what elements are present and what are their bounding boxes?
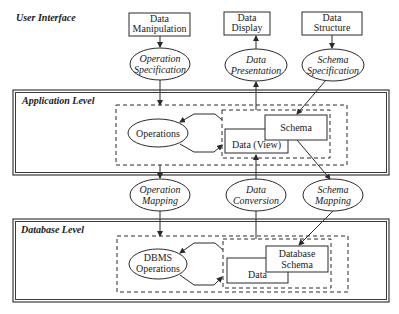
data-manipulation-box: Data Manipulation	[129, 13, 190, 36]
edge-dbmsops-to-data	[180, 275, 222, 285]
edge-schema-to-schemamapping	[297, 140, 330, 179]
data-presentation-line2: Presentation	[230, 65, 282, 76]
database-schema-line1: Database	[279, 248, 316, 259]
data-manipulation-line2: Manipulation	[133, 23, 187, 34]
schema-label: Schema	[280, 122, 312, 133]
operations-label: Operations	[136, 128, 180, 139]
data-presentation-process: Data Presentation	[225, 49, 287, 81]
data-conversion-process: Data Conversion	[226, 179, 286, 211]
layer-title-database-level: Database Level	[20, 224, 84, 235]
edge-schemaspec-to-schema	[297, 80, 326, 114]
database-schema-line2: Schema	[281, 259, 313, 270]
dbms-operations-node: DBMS Operations	[129, 249, 187, 279]
dbms-operations-line2: Operations	[136, 263, 180, 274]
schema-specification-line2: Specification	[307, 65, 359, 76]
operation-mapping-line1: Operation	[139, 184, 180, 195]
edge-schemamapping-to-dbschema	[299, 211, 333, 245]
data-conversion-line1: Data	[245, 184, 266, 195]
edge-data-to-dbmsops	[180, 243, 223, 253]
schema-specification-process: Schema Specification	[302, 49, 364, 81]
operation-specification-process: Operation Specification	[130, 48, 190, 80]
operation-specification-line1: Operation	[139, 53, 180, 64]
data-view-label: Data (View)	[232, 139, 281, 151]
operation-mapping-line2: Mapping	[141, 195, 178, 206]
operation-specification-line2: Specification	[134, 64, 186, 75]
data-display-line2: Display	[231, 22, 262, 33]
data-structure-line2: Structure	[314, 22, 351, 33]
schema-node: Schema	[265, 115, 327, 140]
data-label: Data	[248, 269, 267, 280]
schema-mapping-line2: Mapping	[314, 195, 351, 206]
dbms-operations-line1: DBMS	[144, 252, 172, 263]
operation-mapping-process: Operation Mapping	[130, 179, 190, 211]
layer-title-user-interface: User Interface	[16, 12, 76, 23]
schema-specification-line1: Schema	[317, 54, 348, 65]
data-presentation-line1: Data	[245, 54, 266, 65]
architecture-diagram: User Interface Data Manipulation Data Di…	[0, 0, 399, 314]
database-schema-node: Database Schema	[266, 246, 328, 272]
schema-mapping-process: Schema Mapping	[303, 179, 363, 211]
edge-operations-to-dataview	[180, 144, 222, 152]
data-conversion-line2: Conversion	[233, 195, 279, 206]
operations-node: Operations	[128, 119, 188, 147]
data-structure-box: Data Structure	[302, 12, 362, 35]
schema-mapping-line1: Schema	[317, 184, 348, 195]
layer-title-application-level: Application Level	[21, 95, 95, 106]
edge-dataview-to-operations	[180, 114, 222, 122]
data-display-box: Data Display	[224, 12, 270, 35]
